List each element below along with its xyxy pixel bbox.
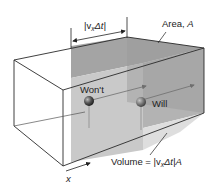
x-axis-label: x xyxy=(65,173,72,184)
x-axis-arrow xyxy=(66,163,90,171)
wont-label: Won't xyxy=(80,84,104,95)
will-particle xyxy=(136,97,146,107)
wont-particle xyxy=(84,96,94,106)
volume-diagram: |vxΔt| Area, A Won't Will Volume = |vxΔt… xyxy=(0,0,217,194)
dimension-label: |vxΔt| xyxy=(84,20,106,32)
will-label: Will xyxy=(152,98,167,109)
area-label: Area, A xyxy=(162,18,194,29)
volume-label: Volume = |vxΔt|A xyxy=(111,156,182,168)
area-leader-line xyxy=(158,32,166,43)
